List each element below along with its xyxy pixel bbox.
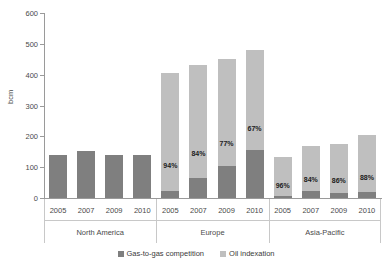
bar-segment-gas-to-gas[interactable] [189, 178, 207, 198]
x-axis-year-label: 2010 [353, 199, 381, 221]
bar-percentage-label: 88% [358, 174, 376, 181]
x-axis-group-label: Asia-Pacific [269, 221, 381, 243]
x-axis-group-label: North America [44, 221, 156, 243]
bar-segment-gas-to-gas[interactable] [105, 155, 123, 198]
y-tick-label: 100 [25, 163, 38, 172]
x-axis-year-label: 2009 [100, 199, 128, 221]
group-years: 2005200720092010 [156, 199, 268, 221]
bar-segment-oil-indexation[interactable] [274, 157, 292, 196]
bar-segment-gas-to-gas[interactable] [330, 193, 348, 198]
bar-stack[interactable]: 67% [246, 50, 264, 198]
x-axis-year-label: 2010 [128, 199, 156, 221]
bar-segment-oil-indexation[interactable] [161, 73, 179, 190]
x-axis-year-label: 2005 [44, 199, 72, 221]
bar-slot [133, 13, 151, 198]
bar-stack[interactable]: 88% [358, 135, 376, 198]
bar-stack[interactable]: 96% [274, 157, 292, 198]
x-axis-year-label: 2007 [184, 199, 212, 221]
bar-slot [49, 13, 67, 198]
y-tick-label: 600 [25, 9, 38, 18]
bar-segment-oil-indexation[interactable] [189, 65, 207, 177]
bar-slot: 86% [330, 13, 348, 198]
plot-area: 0100200300400500600 94%84%77%67%96%84%86… [44, 13, 381, 198]
bar-slot [77, 13, 95, 198]
bar-group [44, 13, 156, 198]
bar-stack[interactable] [133, 155, 151, 198]
bar-stack[interactable]: 94% [161, 73, 179, 198]
y-tick-label: 400 [25, 70, 38, 79]
x-axis-year-label: 2005 [269, 199, 297, 221]
bar-segment-gas-to-gas[interactable] [302, 191, 320, 198]
bar-slot: 88% [358, 13, 376, 198]
bar-stack[interactable] [77, 151, 95, 198]
bar-segment-oil-indexation[interactable] [218, 59, 236, 166]
x-axis-year-label: 2010 [241, 199, 269, 221]
legend-label: Gas-to-gas competition [127, 249, 205, 258]
bar-slot: 67% [246, 13, 264, 198]
bar-segment-gas-to-gas[interactable] [358, 192, 376, 198]
x-axis-year-label: 2005 [156, 199, 184, 221]
y-tick-label: 200 [25, 132, 38, 141]
legend-label: Oil indexation [229, 249, 274, 258]
bar-segment-gas-to-gas[interactable] [133, 155, 151, 198]
y-axis-title: bcm [6, 90, 15, 104]
group-separator [44, 199, 45, 243]
bar-slot: 96% [274, 13, 292, 198]
bar-segment-gas-to-gas[interactable] [218, 166, 236, 198]
bar-percentage-label: 77% [218, 140, 236, 147]
stacked-bar-chart: bcm 0100200300400500600 94%84%77%67%96%8… [0, 0, 392, 269]
y-tick-label: 300 [25, 101, 38, 110]
bar-segment-gas-to-gas[interactable] [161, 191, 179, 198]
x-axis-year-label: 2007 [72, 199, 100, 221]
category-axis: 2005200720092010200520072009201020052007… [44, 199, 381, 245]
bar-percentage-label: 84% [189, 150, 207, 157]
group-separator [380, 199, 381, 243]
group-years: 2005200720092010 [44, 199, 156, 221]
bar-segment-gas-to-gas[interactable] [77, 151, 95, 198]
x-axis-year-label: 2009 [212, 199, 240, 221]
legend-item[interactable]: Oil indexation [220, 249, 274, 258]
bar-stack[interactable] [105, 155, 123, 198]
bar-percentage-label: 84% [302, 176, 320, 183]
legend-item[interactable]: Gas-to-gas competition [118, 249, 205, 258]
legend-swatch-icon [118, 251, 124, 257]
bar-segment-gas-to-gas[interactable] [246, 150, 264, 198]
group-separator [156, 199, 157, 243]
bar-percentage-label: 86% [330, 177, 348, 184]
y-tick-label: 500 [25, 39, 38, 48]
x-axis-year-label: 2007 [297, 199, 325, 221]
bar-segment-oil-indexation[interactable] [302, 146, 320, 191]
bar-percentage-label: 94% [161, 162, 179, 169]
bar-slot: 84% [189, 13, 207, 198]
bar-stack[interactable]: 84% [189, 65, 207, 198]
legend-swatch-icon [220, 251, 226, 257]
bar-stack[interactable] [49, 155, 67, 198]
x-axis-group-label: Europe [156, 221, 268, 243]
bar-segment-oil-indexation[interactable] [358, 135, 376, 191]
bar-stack[interactable]: 84% [302, 146, 320, 198]
bar-stack[interactable]: 86% [330, 144, 348, 198]
bar-slot: 77% [218, 13, 236, 198]
bar-group: 96%84%86%88% [269, 13, 381, 198]
bar-percentage-label: 67% [246, 125, 264, 132]
bar-segment-oil-indexation[interactable] [246, 50, 264, 150]
year-label-row: 2005200720092010200520072009201020052007… [44, 199, 381, 221]
bar-slot [105, 13, 123, 198]
bar-segment-gas-to-gas[interactable] [274, 196, 292, 198]
bar-slot: 94% [161, 13, 179, 198]
x-axis-year-label: 2009 [325, 199, 353, 221]
chart-legend: Gas-to-gas competitionOil indexation [0, 249, 392, 258]
group-separator [269, 199, 270, 243]
bar-stack[interactable]: 77% [218, 59, 236, 198]
y-tick-label: 0 [34, 194, 38, 203]
bar-percentage-label: 96% [274, 182, 292, 189]
group-label-row: North AmericaEuropeAsia-Pacific [44, 221, 381, 243]
bar-segment-gas-to-gas[interactable] [49, 155, 67, 198]
group-years: 2005200720092010 [269, 199, 381, 221]
bar-segment-oil-indexation[interactable] [330, 144, 348, 193]
bar-group: 94%84%77%67% [156, 13, 268, 198]
bar-slot: 84% [302, 13, 320, 198]
